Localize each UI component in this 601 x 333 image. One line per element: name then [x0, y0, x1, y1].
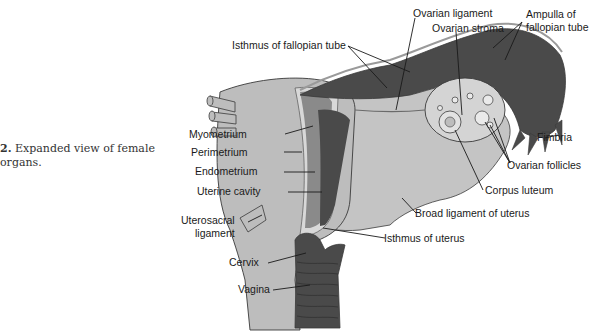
label-ovarian-follicles: Ovarian follicles — [507, 159, 581, 171]
label-fimbria: Fimbria — [537, 131, 572, 143]
label-uterosacral-line2: ligament — [195, 227, 235, 239]
label-perimetrium: Perimetrium — [191, 146, 248, 158]
label-isthmus-of-fallopian-tube: Isthmus of fallopian tube — [232, 39, 346, 51]
label-broad-ligament-of-uterus: Broad ligament of uterus — [415, 207, 529, 219]
ovary-shape — [425, 78, 505, 142]
female-reproductive-organs-diagram: Isthmus of fallopian tube Ovarian ligame… — [0, 0, 601, 333]
label-ampulla-line1: Ampulla of — [526, 8, 576, 20]
label-cervix: Cervix — [229, 256, 260, 268]
label-uterosacral-line1: Uterosacral — [181, 214, 235, 226]
label-uterine-cavity: Uterine cavity — [197, 185, 261, 197]
corpus-luteum-center — [445, 117, 455, 127]
label-myometrium: Myometrium — [189, 128, 247, 140]
cervix-shape — [295, 233, 345, 328]
label-ampulla-line2: fallopian tube — [526, 21, 589, 33]
label-vagina: Vagina — [238, 283, 270, 295]
label-endometrium: Endometrium — [195, 165, 258, 177]
label-isthmus-of-uterus: Isthmus of uterus — [384, 232, 465, 244]
label-ovarian-ligament: Ovarian ligament — [413, 7, 492, 19]
label-ovarian-stroma: Ovarian stroma — [432, 22, 504, 34]
label-corpus-luteum: Corpus luteum — [485, 184, 554, 196]
